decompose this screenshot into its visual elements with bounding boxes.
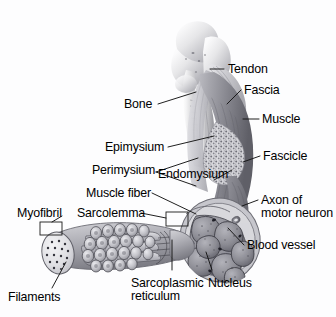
label-fascicle: Fascicle bbox=[263, 150, 307, 163]
muscle-anatomy-figure: Tendon Fascia Bone Muscle Epimysium Fasc… bbox=[0, 0, 336, 317]
label-muscle-fiber: Muscle fiber bbox=[86, 187, 151, 200]
label-axon-of-motor-neuron: Axon of motor neuron bbox=[261, 194, 335, 220]
label-muscle: Muscle bbox=[262, 113, 300, 126]
label-perimysium: Perimysium bbox=[92, 164, 155, 177]
label-fascia: Fascia bbox=[244, 84, 280, 97]
label-nucleus: Nucleus bbox=[208, 277, 252, 290]
label-blood-vessel: Blood vessel bbox=[247, 239, 315, 252]
label-sarcolemma: Sarcolemma bbox=[77, 207, 145, 220]
label-tendon: Tendon bbox=[228, 63, 268, 76]
label-bone: Bone bbox=[124, 98, 152, 111]
label-myofibril: Myofibril bbox=[17, 207, 62, 220]
label-epimysium: Epimysium bbox=[105, 141, 164, 154]
label-endomysium: Endomysium bbox=[158, 168, 228, 181]
label-filaments: Filaments bbox=[8, 291, 60, 304]
label-sarcoplasmic-reticulum: Sarcoplasmic reticulum bbox=[131, 277, 207, 303]
